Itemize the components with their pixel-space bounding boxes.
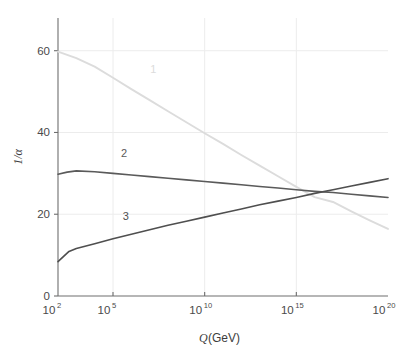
y-tick-label: 40 (37, 126, 50, 138)
x-axis-title: Q (GeV) (199, 331, 240, 345)
x-tick-base: 10 (373, 304, 386, 316)
y-tick-label: 0 (44, 290, 50, 302)
series-annotation-1: 1 (150, 63, 156, 75)
x-axis-title-units: (GeV) (208, 331, 240, 345)
gauge-coupling-unification-chart: 123 0204060102105101010151020 Q (GeV)1/α (0, 0, 398, 355)
chart-canvas: 123 0204060102105101010151020 Q (GeV)1/α (0, 0, 398, 355)
x-tick-exponent: 2 (57, 301, 61, 310)
y-tick-label: 60 (37, 45, 50, 57)
x-tick-exponent: 10 (204, 301, 212, 310)
x-axis-title-symbol: Q (199, 331, 208, 345)
series-annotation-3: 3 (123, 210, 129, 222)
x-tick-base: 10 (281, 304, 294, 316)
x-tick-base: 10 (43, 304, 56, 316)
series-annotation-2: 2 (121, 147, 127, 159)
y-axis-title-text: 1/α (11, 148, 25, 164)
x-tick-exponent: 15 (295, 301, 303, 310)
y-axis-title: 1/α (11, 148, 25, 164)
x-tick-base: 10 (189, 304, 202, 316)
x-tick-base: 10 (98, 304, 111, 316)
x-tick-exponent: 20 (387, 301, 395, 310)
x-tick-exponent: 5 (112, 301, 116, 310)
y-tick-label: 20 (37, 208, 50, 220)
